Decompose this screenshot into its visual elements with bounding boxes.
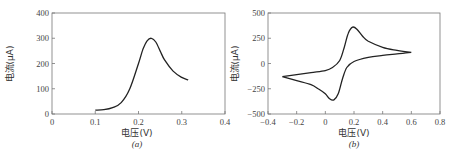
x-tick-label: 0.8	[435, 117, 446, 127]
y-tick-label: 0	[261, 59, 265, 69]
x-tick-label: 0.3	[176, 117, 187, 127]
y-tick-label: 0	[45, 109, 49, 119]
data-line	[95, 38, 188, 110]
chart-panel-a: 0100200300400 00.10.20.30.4 电流(μA) 电压(V)…	[4, 8, 231, 149]
x-tick-label: 0.2	[349, 117, 360, 127]
x-tick-label: 0.4	[377, 117, 388, 127]
y-axis-title: 电流(μA)	[229, 46, 240, 83]
y-tick-label: 400	[36, 8, 49, 18]
x-tick-label: −0.4	[260, 117, 276, 127]
figure: 0100200300400 00.10.20.30.4 电流(μA) 电压(V)…	[0, 0, 460, 154]
x-tick-label: 0.1	[90, 117, 101, 127]
y-tick-label: 200	[36, 59, 49, 69]
chart-panel-b: −500−2500250500 −0.4−0.200.20.40.60.8 电流…	[229, 8, 445, 149]
y-tick-label: 100	[36, 84, 49, 94]
y-tick-label: 300	[36, 33, 49, 43]
panel-label: (a)	[132, 139, 143, 149]
x-tick-label: 0	[323, 117, 327, 127]
x-tick-label: −0.2	[289, 117, 304, 127]
data-line	[282, 27, 411, 100]
y-tick-label: 250	[252, 33, 265, 43]
panel-label: (b)	[349, 139, 360, 149]
x-tick-label: 0	[50, 117, 54, 127]
x-tick-label: 0.6	[406, 117, 417, 127]
x-axis-ticks: 00.10.20.30.4	[50, 111, 231, 127]
x-tick-label: 0.4	[220, 117, 231, 127]
y-axis-ticks: −500−2500250500	[247, 8, 271, 119]
y-tick-label: −250	[247, 84, 265, 94]
plot-frame	[268, 13, 440, 114]
x-tick-label: 0.2	[133, 117, 144, 127]
x-axis-ticks: −0.4−0.200.20.40.60.8	[260, 111, 445, 127]
y-axis-title: 电流(μA)	[4, 46, 15, 83]
x-axis-title: 电压(V)	[121, 127, 152, 138]
x-axis-title: 电压(V)	[338, 127, 369, 138]
y-tick-label: 500	[252, 8, 265, 18]
